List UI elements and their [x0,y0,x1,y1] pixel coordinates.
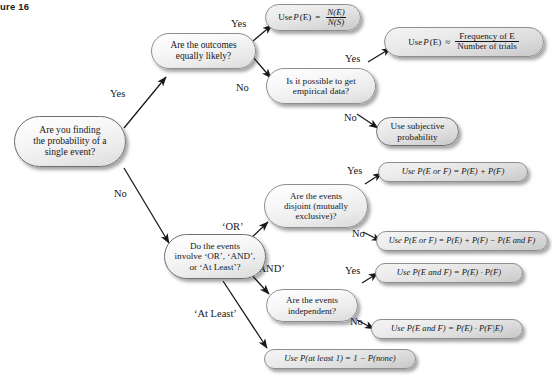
node-at-least-one[interactable]: Use P(at least 1) = 1 − P(none) [264,349,416,369]
classical-formula-prefix: Use [278,12,292,22]
node-classical-formula[interactable]: Use P(E) = N(E) N(S) [265,4,361,31]
node-disjoint-line-3: exclusive)? [296,211,337,221]
node-empirical-data-line-1: Is it possible to get [286,76,355,86]
node-equally-likely[interactable]: Are the outcomes equally likely? [151,33,256,69]
edge-label-start-yes: Yes [110,88,125,99]
empirical-formula-prefix: Use [408,37,422,47]
edge-start-yes [124,77,166,128]
empirical-formula-arg: (E) [430,37,442,47]
classical-formula-fraction: N(E) N(S) [325,8,347,27]
classical-formula-denominator: N(S) [326,17,347,27]
node-equally-likely-line-1: Are the outcomes [170,40,236,50]
node-start-line-3: single event? [45,146,95,157]
edge-label-disjoint-no: No [352,228,365,239]
node-addition-rule-general[interactable]: Use P(E or F) = P(E) + P(F) − P(E and F) [376,231,548,251]
node-or-and-atleast-line-1: Do the events [190,241,240,251]
node-or-and-atleast-line-3: or ‘At Least’? [189,262,240,272]
node-independent-line-1: Are the events [286,295,338,305]
node-subjective-line-1: Use subjective [391,121,445,131]
edge-label-independent-yes: Yes [345,265,360,276]
empirical-formula-fraction: Frequency of E Number of trials [455,32,518,51]
empirical-formula-denominator: Number of trials [455,41,518,51]
classical-formula-func: P [293,12,299,22]
node-or-and-atleast-line-2: involve ‘OR’, ‘AND’, [175,251,256,261]
classical-formula-relation: = [312,12,323,22]
addition-rule-general-text: Use P(E or F) = P(E) + P(F) − P(E and F) [384,236,540,245]
edge-label-branch-or: ‘OR’ [222,221,244,232]
node-independent-line-2: independent? [288,306,336,316]
node-or-and-atleast[interactable]: Do the events involve ‘OR’, ‘AND’, or ‘A… [164,234,266,279]
node-equally-likely-line-2: equally likely? [176,51,231,61]
node-multiplication-rule-independent[interactable]: Use P(E and F) = P(E) · P(F) [375,263,523,283]
edge-start-no [124,168,169,243]
node-empirical-data[interactable]: Is it possible to get empirical data? [266,68,376,104]
edge-label-equally-yes: Yes [231,18,246,29]
empirical-formula-relation: ≈ [442,37,453,47]
figure-flowchart: gure 16 [0,0,552,378]
node-start-line-2: the probability of a [33,135,106,146]
empirical-formula-func: P [423,37,429,47]
multiplication-rule-conditional-text: Use P(E and F) = P(E) · P(F|E) [379,324,515,334]
edge-label-start-no: No [114,188,127,199]
node-addition-rule-disjoint[interactable]: Use P(E or F) = P(E) + P(F) [378,162,528,182]
edge-empirical-no [357,114,378,128]
node-subjective-probability[interactable]: Use subjective probability [376,117,459,146]
node-start-line-1: Are you finding [39,124,100,135]
node-independent[interactable]: Are the events independent? [266,289,358,322]
node-multiplication-rule-conditional[interactable]: Use P(E and F) = P(E) · P(F|E) [371,319,523,339]
figure-label: gure 16 [0,1,29,12]
edge-label-empirical-no: No [344,112,357,123]
classical-formula-numerator: N(E) [325,8,347,17]
edge-label-branch-at-least: ‘At Least’ [194,308,237,319]
node-disjoint-line-2: disjoint (mutually [284,201,348,211]
node-empirical-formula[interactable]: Use P(E) ≈ Frequency of E Number of tria… [384,27,544,57]
edge-label-equally-no: No [236,82,249,93]
edge-label-empirical-yes: Yes [345,53,360,64]
node-start[interactable]: Are you finding the probability of a sin… [14,116,126,167]
node-disjoint[interactable]: Are the events disjoint (mutually exclus… [264,184,368,228]
node-subjective-line-2: probability [397,132,437,142]
node-empirical-data-line-2: empirical data? [293,86,349,96]
empirical-formula-numerator: Frequency of E [457,32,516,41]
edge-label-disjoint-yes: Yes [347,165,362,176]
classical-formula-arg: (E) [300,12,312,22]
at-least-one-text: Use P(at least 1) = 1 − P(none) [272,354,408,364]
multiplication-rule-independent-text: Use P(E and F) = P(E) · P(F) [383,268,515,278]
addition-rule-disjoint-text: Use P(E or F) = P(E) + P(F) [386,167,520,177]
node-disjoint-line-1: Are the events [290,191,342,201]
